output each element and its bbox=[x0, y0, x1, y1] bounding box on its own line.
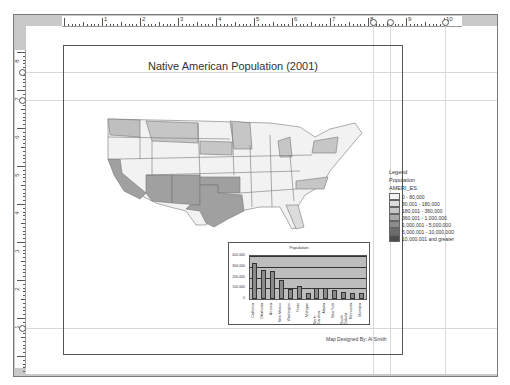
ruler-tick bbox=[189, 24, 190, 26]
ruler-tick bbox=[117, 24, 118, 26]
legend-class: 80,001 - 180,000 bbox=[389, 200, 454, 207]
chart-y-tick: 400,000 bbox=[232, 253, 245, 257]
ruler-tick bbox=[17, 166, 25, 167]
ruler-tick bbox=[23, 333, 25, 334]
ruler-tick bbox=[23, 314, 25, 315]
ruler-tick bbox=[23, 367, 25, 368]
ruler-tick bbox=[17, 242, 25, 243]
ruler-tick bbox=[440, 24, 441, 26]
ruler-tick bbox=[224, 24, 225, 26]
chart-bar[interactable] bbox=[279, 280, 284, 299]
chart-bar[interactable] bbox=[261, 270, 266, 299]
us-states-map[interactable] bbox=[100, 115, 365, 235]
chart-bar[interactable] bbox=[350, 293, 355, 299]
ruler-label: 2 bbox=[14, 287, 20, 290]
ruler-tick bbox=[23, 272, 25, 273]
ruler-tick bbox=[23, 250, 25, 251]
chart-bar[interactable] bbox=[359, 293, 364, 299]
ruler-tick bbox=[17, 90, 25, 91]
chart-bar[interactable] bbox=[306, 293, 311, 299]
guide-handle[interactable] bbox=[19, 97, 26, 104]
legend-swatch bbox=[389, 200, 400, 207]
ruler-tick bbox=[193, 24, 194, 26]
ruler-tick bbox=[23, 155, 25, 156]
ruler-tick bbox=[23, 212, 25, 213]
ruler-tick bbox=[345, 24, 346, 26]
chart-bar[interactable] bbox=[314, 288, 319, 299]
ruler-tick bbox=[23, 371, 25, 372]
chart-gridline bbox=[250, 288, 366, 289]
ruler-tick bbox=[281, 24, 282, 26]
ruler-tick bbox=[17, 356, 25, 357]
chart-bar[interactable] bbox=[323, 288, 328, 299]
ruler-tick bbox=[23, 170, 25, 171]
ruler-tick bbox=[23, 79, 25, 80]
chart-bar[interactable] bbox=[252, 263, 257, 299]
legend-swatch bbox=[389, 228, 400, 235]
legend-layer: Population bbox=[389, 177, 454, 183]
population-bar-chart[interactable]: Population 0100,000200,000300,000400,000… bbox=[228, 242, 370, 325]
ruler-tick bbox=[23, 60, 25, 61]
ruler-tick bbox=[23, 124, 25, 125]
chart-bar[interactable] bbox=[288, 289, 293, 299]
ruler-tick bbox=[425, 22, 426, 26]
guide-handle[interactable] bbox=[19, 69, 26, 76]
horizontal-ruler[interactable]: 12345678910 bbox=[62, 16, 462, 27]
ruler-tick bbox=[429, 24, 430, 26]
ruler-tick bbox=[21, 299, 25, 300]
ruler-tick bbox=[197, 22, 198, 26]
ruler-tick bbox=[23, 136, 25, 137]
legend-class: 180,001 - 360,000 bbox=[389, 207, 454, 214]
ruler-tick bbox=[23, 276, 25, 277]
ruler-tick bbox=[23, 132, 25, 133]
chart-gridline bbox=[250, 267, 366, 268]
ruler-tick bbox=[436, 24, 437, 26]
chart-gridline bbox=[250, 278, 366, 279]
chart-bar[interactable] bbox=[332, 290, 337, 299]
ruler-tick bbox=[288, 24, 289, 26]
chart-title: Population bbox=[229, 245, 369, 250]
legend-class-label: 360,001 - 1,000,000 bbox=[402, 215, 447, 221]
ruler-label: 9 bbox=[408, 16, 411, 22]
chart-bar[interactable] bbox=[270, 271, 275, 299]
map-legend[interactable]: Legend Population AMERI_ES 0 - 80,00080,… bbox=[389, 169, 454, 242]
ruler-tick bbox=[155, 24, 156, 26]
ruler-tick bbox=[21, 337, 25, 338]
ruler-tick bbox=[23, 82, 25, 83]
map-credit[interactable]: Map Designed By: Al Smith bbox=[326, 336, 387, 342]
ruler-tick bbox=[21, 147, 25, 148]
ruler-tick bbox=[254, 18, 255, 26]
ruler-tick bbox=[23, 158, 25, 159]
ruler-tick bbox=[163, 24, 164, 26]
legend-class-label: 0 - 80,000 bbox=[402, 194, 425, 200]
ruler-tick bbox=[220, 24, 221, 26]
guide-handle[interactable] bbox=[19, 325, 26, 332]
ruler-tick bbox=[402, 24, 403, 26]
ruler-label: 4 bbox=[218, 16, 221, 22]
chart-bar[interactable] bbox=[297, 286, 302, 299]
ruler-tick bbox=[151, 24, 152, 26]
ruler-label: 5 bbox=[14, 173, 20, 176]
ruler-tick bbox=[21, 261, 25, 262]
chart-bar[interactable] bbox=[341, 292, 346, 299]
ruler-label: 4 bbox=[14, 211, 20, 214]
ruler-tick bbox=[364, 24, 365, 26]
ruler-tick bbox=[23, 246, 25, 247]
ruler-tick bbox=[23, 162, 25, 163]
ruler-label: 5 bbox=[256, 16, 259, 22]
guide-handle[interactable] bbox=[442, 19, 449, 26]
guide-handle[interactable] bbox=[370, 19, 377, 26]
ruler-label: 3 bbox=[180, 16, 183, 22]
guide-handle[interactable] bbox=[387, 19, 394, 26]
ruler-tick bbox=[23, 63, 25, 64]
ruler-tick bbox=[216, 18, 217, 26]
ruler-tick bbox=[246, 24, 247, 26]
ruler-tick bbox=[125, 24, 126, 26]
ruler-tick bbox=[349, 22, 350, 26]
ruler-tick bbox=[300, 24, 301, 26]
map-title[interactable]: Native American Population (2001) bbox=[63, 60, 403, 72]
ruler-tick bbox=[23, 151, 25, 152]
ruler-tick bbox=[23, 231, 25, 232]
ruler-tick bbox=[23, 193, 25, 194]
ruler-tick bbox=[341, 24, 342, 26]
